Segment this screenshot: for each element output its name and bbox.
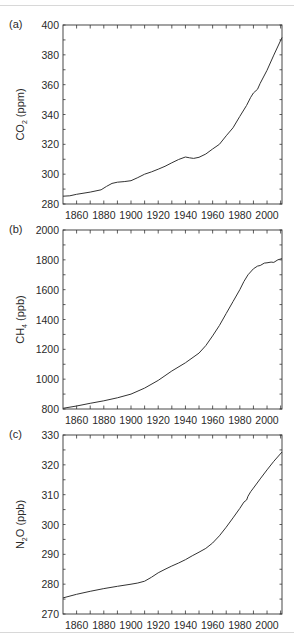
x-tick-label: 1900 xyxy=(119,209,143,221)
series-line-ch4 xyxy=(63,259,282,409)
x-tick-label: 1920 xyxy=(147,619,171,631)
y-tick-label: 300 xyxy=(41,168,59,180)
y-axis-title: CH4 (ppb) xyxy=(14,295,28,344)
y-tick-label: 320 xyxy=(41,459,59,471)
panel-co2: 2803003203403603804001860188019001920194… xyxy=(9,18,282,221)
panel-ch4: 8001000120014001600180020001860188019001… xyxy=(9,223,282,426)
x-tick-label: 1980 xyxy=(228,414,252,426)
y-tick-label: 800 xyxy=(41,403,59,415)
x-tick-label: 1900 xyxy=(119,414,143,426)
x-tick-label: 1980 xyxy=(228,619,252,631)
x-tick-label: 1980 xyxy=(228,209,252,221)
x-tick-label: 1860 xyxy=(65,414,89,426)
y-tick-label: 340 xyxy=(41,109,59,121)
x-tick-label: 1960 xyxy=(201,619,225,631)
y-tick-label: 280 xyxy=(41,198,59,210)
panel-label: (c) xyxy=(9,428,22,440)
series-line-co2 xyxy=(63,38,282,197)
x-tick-label: 1860 xyxy=(65,619,89,631)
x-tick-label: 2000 xyxy=(255,209,279,221)
y-tick-label: 2000 xyxy=(36,224,60,236)
x-tick-label: 1940 xyxy=(174,619,198,631)
x-tick-label: 1940 xyxy=(174,414,198,426)
x-tick-label: 1960 xyxy=(201,209,225,221)
y-tick-label: 1600 xyxy=(36,284,60,296)
x-tick-label: 2000 xyxy=(255,414,279,426)
y-tick-label: 1400 xyxy=(36,314,60,326)
plot-frame xyxy=(63,25,282,204)
chart-figure: 2803003203403603804001860188019001920194… xyxy=(0,0,294,644)
y-tick-label: 270 xyxy=(41,608,59,620)
x-tick-label: 1880 xyxy=(92,414,116,426)
panel-label: (b) xyxy=(9,223,22,235)
y-axis-title: N2O (ppb) xyxy=(14,500,28,549)
y-tick-label: 330 xyxy=(41,429,59,441)
y-tick-label: 1200 xyxy=(36,343,60,355)
y-tick-label: 360 xyxy=(41,79,59,91)
x-tick-label: 1880 xyxy=(92,209,116,221)
x-tick-label: 1920 xyxy=(147,414,171,426)
x-tick-label: 1960 xyxy=(201,414,225,426)
y-tick-label: 290 xyxy=(41,548,59,560)
x-tick-label: 1900 xyxy=(119,619,143,631)
plot-frame xyxy=(63,230,282,409)
x-tick-label: 1920 xyxy=(147,209,171,221)
y-tick-label: 1000 xyxy=(36,373,60,385)
panel-n2o: 2702802903003103203301860188019001920194… xyxy=(9,428,282,631)
y-tick-label: 400 xyxy=(41,19,59,31)
x-tick-label: 1860 xyxy=(65,209,89,221)
series-line-n2o xyxy=(63,452,282,598)
y-tick-label: 380 xyxy=(41,49,59,61)
y-tick-label: 310 xyxy=(41,489,59,501)
y-tick-label: 280 xyxy=(41,578,59,590)
y-tick-label: 300 xyxy=(41,519,59,531)
plot-frame xyxy=(63,435,282,614)
y-tick-label: 1800 xyxy=(36,254,60,266)
y-axis-title: CO2 (ppm) xyxy=(14,88,28,140)
x-tick-label: 1880 xyxy=(92,619,116,631)
y-tick-label: 320 xyxy=(41,138,59,150)
x-tick-label: 2000 xyxy=(255,619,279,631)
panel-label: (a) xyxy=(9,18,22,30)
x-tick-label: 1940 xyxy=(174,209,198,221)
